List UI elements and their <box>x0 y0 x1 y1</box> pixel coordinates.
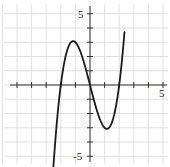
x-max-label: 5 <box>159 87 165 99</box>
function-graph: 5 -5 5 <box>0 0 170 167</box>
grid-lines <box>2 4 168 164</box>
axes <box>10 6 167 162</box>
y-max-label: 5 <box>78 8 84 20</box>
y-min-label: -5 <box>73 150 83 162</box>
